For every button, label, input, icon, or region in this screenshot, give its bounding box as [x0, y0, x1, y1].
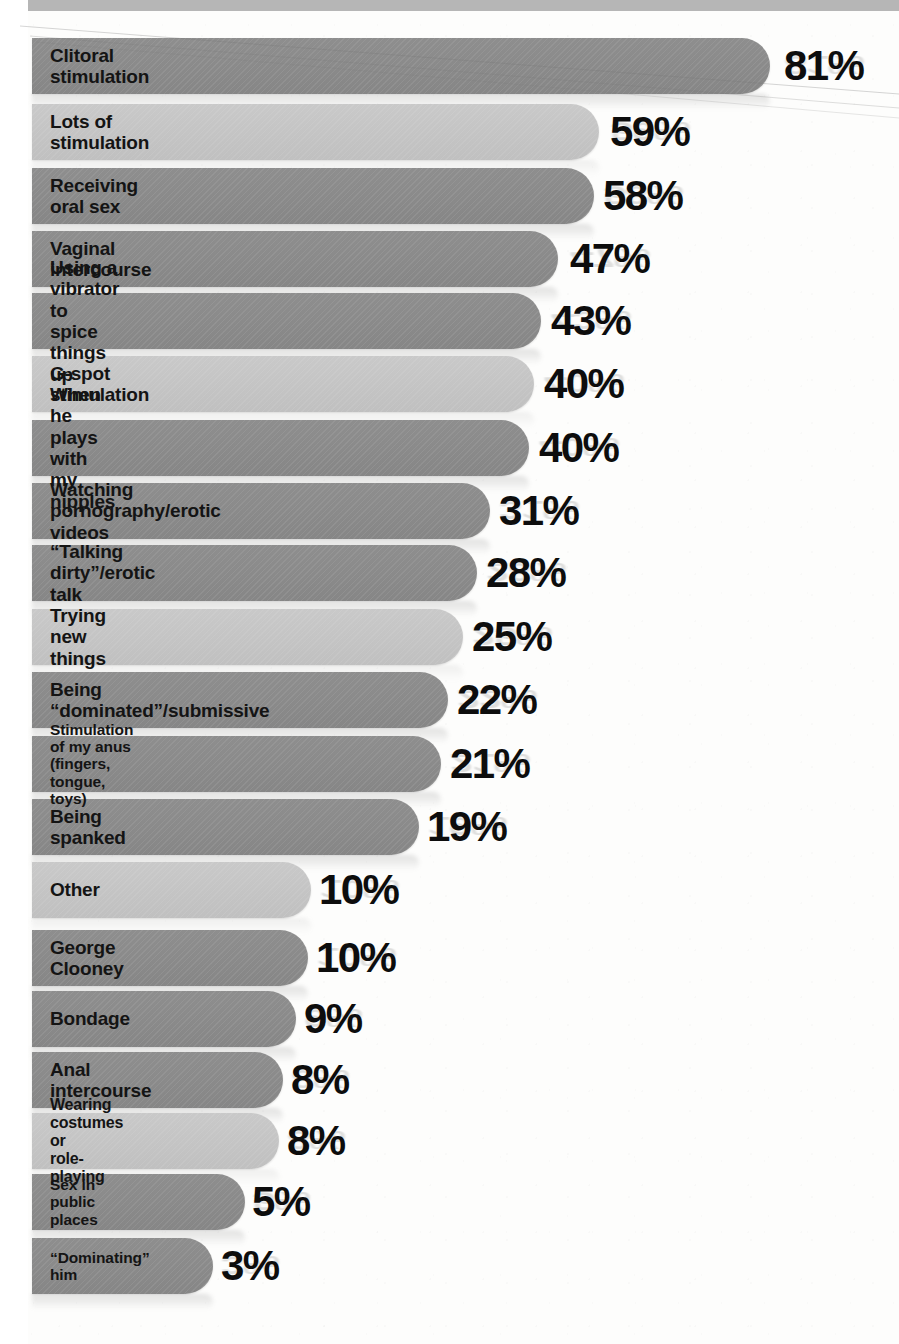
bar-value-label: 43% [551, 293, 630, 349]
bar-category-label: Using a vibrator to spice things up [50, 293, 119, 349]
bar-category-label: George Clooney [50, 930, 124, 986]
bar-category-label: Lots of stimulation [50, 104, 149, 160]
bar-value-label: 40% [544, 356, 623, 412]
bar-category-label: “Dominating” him [50, 1238, 150, 1294]
bar-value-label: 10% [316, 930, 395, 986]
bar-value-label: 22% [457, 672, 536, 728]
bar-category-label: “Talking dirty”/erotic talk [50, 545, 155, 601]
bar-category-label: Being “dominated”/submissive [50, 672, 269, 728]
bar-value-label: 10% [319, 862, 398, 918]
bar-value-label: 8% [287, 1113, 345, 1169]
bar-reflection [32, 1294, 213, 1310]
bar-value-label: 9% [304, 991, 362, 1047]
bar-category-label: Being spanked [50, 799, 126, 855]
bar-value-label: 58% [603, 168, 682, 224]
bar-category-label: Sex in public places [50, 1174, 98, 1230]
page-gutter [0, 0, 28, 1344]
bar-value-label: 31% [499, 483, 578, 539]
bar-category-label: Receiving oral sex [50, 168, 138, 224]
bar-category-label: Bondage [50, 991, 130, 1047]
horizontal-bar-chart: Clitoral stimulation81%81%Lots of stimul… [0, 0, 899, 1344]
bar-value-label: 25% [472, 609, 551, 665]
bar-value-label: 19% [427, 799, 506, 855]
bar-value-label: 21% [450, 736, 529, 792]
bar-value-label: 28% [486, 545, 565, 601]
bar-value-label: 8% [291, 1052, 349, 1108]
bar-category-label: Other [50, 862, 100, 918]
bar-value-label: 47% [570, 231, 649, 287]
bar-value-label: 59% [610, 104, 689, 160]
bar-value-label: 5% [252, 1174, 310, 1230]
bar-category-label: Wearing costumes or role-playing [50, 1113, 123, 1169]
bar-value-label: 40% [539, 420, 618, 476]
bar-value-label: 3% [221, 1238, 279, 1294]
bar-value-label: 81% [784, 38, 863, 94]
bar-category-label: When he plays with my nipples [50, 420, 115, 476]
bar-category-label: Clitoral stimulation [50, 38, 149, 94]
bar-category-label: Trying new things [50, 609, 106, 665]
bar-category-label: Watching pornography/erotic videos [50, 483, 221, 539]
bar-category-label: Stimulation of my anus (fingers, tongue,… [50, 736, 133, 792]
